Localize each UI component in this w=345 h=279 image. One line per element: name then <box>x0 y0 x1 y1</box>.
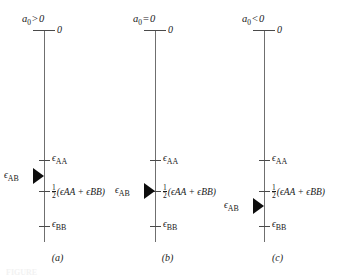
panel-letter-b: (b) <box>110 252 225 263</box>
energy-level-figure: a0>0 0 ϵAA 12(ϵAA + ϵBB) ϵBB ϵAB (a) a0=… <box>0 0 345 279</box>
a0-operator: < <box>251 13 259 24</box>
one-half-fraction-a: 12 <box>52 184 56 201</box>
epsilon-ab-pointer-c <box>253 198 264 214</box>
zero-label-c: 0 <box>277 24 282 35</box>
label-mean-a: 12(ϵAA + ϵBB) <box>52 184 105 201</box>
epsilon-ab-pointer-b <box>144 183 155 199</box>
tick-epsilon-bb-c <box>259 226 270 227</box>
label-mean-b: 12(ϵAA + ϵBB) <box>163 184 216 201</box>
one-half-fraction-b: 12 <box>163 184 167 201</box>
energy-axis-c <box>264 30 265 242</box>
a0-expression-a: a0>0 <box>22 13 44 27</box>
label-epsilon-aa-c: ϵAA <box>272 154 287 166</box>
mean-expression-c: (ϵAA + ϵBB) <box>277 187 325 197</box>
zero-tick-c <box>253 30 275 31</box>
tick-epsilon-aa-b <box>150 160 161 161</box>
zero-label-b: 0 <box>168 24 173 35</box>
label-epsilon-ab-b: ϵAB <box>115 185 130 198</box>
one-half-fraction-c: 12 <box>272 184 276 201</box>
label-epsilon-ab-c: ϵAB <box>224 200 239 213</box>
a0-operator: = <box>142 13 150 24</box>
label-epsilon-aa-b: ϵAA <box>163 154 178 166</box>
panel-letter-a: (a) <box>0 252 115 263</box>
caption-fragment: FIGURE <box>6 268 102 277</box>
tick-mean-a <box>39 191 50 192</box>
energy-axis-b <box>155 30 156 242</box>
tick-mean-c <box>259 191 270 192</box>
a0-operator: > <box>31 13 39 24</box>
mean-expression-a: (ϵAA + ϵBB) <box>57 187 105 197</box>
zero-tick-a <box>33 30 55 31</box>
panel-b: a0=0 0 ϵAA 12(ϵAA + ϵBB) ϵBB ϵAB (b) <box>110 0 225 279</box>
a0-expression-c: a0<0 <box>242 13 264 27</box>
label-epsilon-bb-a: ϵBB <box>52 220 66 232</box>
panel-letter-c: (c) <box>220 252 335 263</box>
a0-value: 0 <box>39 13 44 24</box>
a0-value: 0 <box>150 13 155 24</box>
zero-tick-b <box>144 30 166 31</box>
tick-epsilon-bb-b <box>150 226 161 227</box>
label-epsilon-bb-b: ϵBB <box>163 220 177 232</box>
tick-epsilon-aa-c <box>259 160 270 161</box>
tick-epsilon-bb-a <box>39 226 50 227</box>
label-epsilon-aa-a: ϵAA <box>52 154 67 166</box>
epsilon-ab-pointer-a <box>33 168 44 184</box>
label-mean-c: 12(ϵAA + ϵBB) <box>272 184 325 201</box>
a0-expression-b: a0=0 <box>133 13 155 27</box>
tick-epsilon-aa-a <box>39 160 50 161</box>
label-epsilon-ab-a: ϵAB <box>4 170 19 183</box>
zero-label-a: 0 <box>57 24 62 35</box>
panel-a: a0>0 0 ϵAA 12(ϵAA + ϵBB) ϵBB ϵAB (a) <box>0 0 115 279</box>
label-epsilon-bb-c: ϵBB <box>272 220 286 232</box>
panel-c: a0<0 0 ϵAA 12(ϵAA + ϵBB) ϵBB ϵAB (c) <box>220 0 335 279</box>
energy-axis-a <box>44 30 45 242</box>
a0-value: 0 <box>259 13 264 24</box>
mean-expression-b: (ϵAA + ϵBB) <box>168 187 216 197</box>
